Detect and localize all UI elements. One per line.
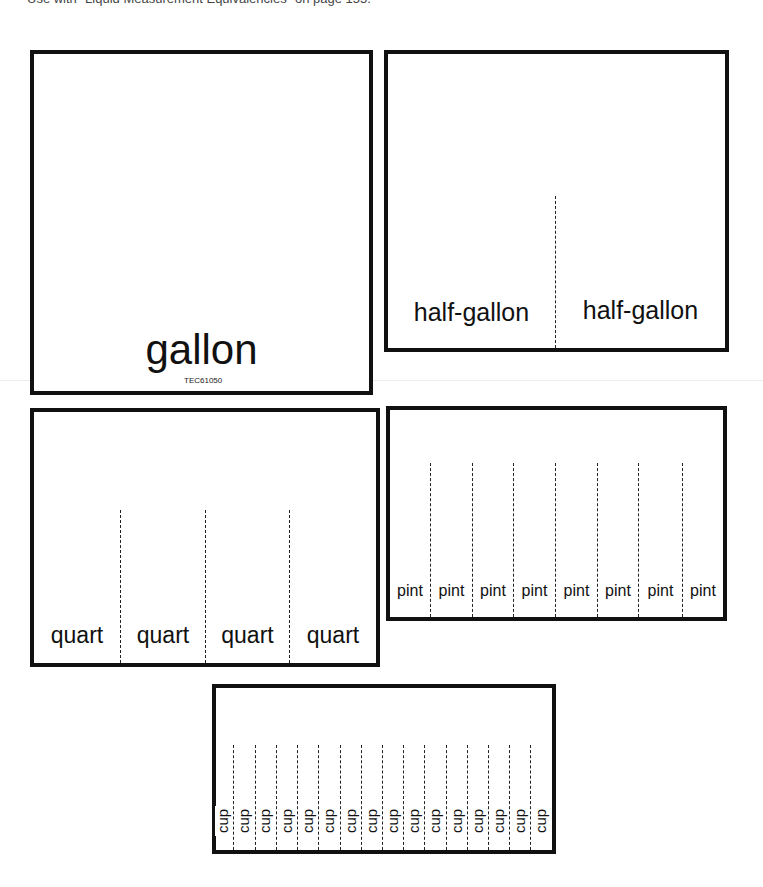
cut-line xyxy=(555,196,556,348)
cup-label: cup xyxy=(257,806,273,836)
pint-card: pint pint pint pint pint pint pint pint xyxy=(386,406,727,621)
pint-label: pint xyxy=(639,582,682,600)
pint-label: pint xyxy=(473,582,513,600)
cup-label: cup xyxy=(406,806,422,836)
pint-label: pint xyxy=(514,582,555,600)
cut-line xyxy=(446,745,447,850)
cut-line xyxy=(530,745,531,850)
cut-line xyxy=(467,745,468,850)
cup-label: cup xyxy=(491,806,507,836)
cut-line xyxy=(340,745,341,850)
half-gallon-label: half-gallon xyxy=(388,298,555,327)
cup-label: cup xyxy=(449,806,465,836)
cup-label: cup xyxy=(427,806,443,836)
cut-line xyxy=(509,745,510,850)
cup-label: cup xyxy=(470,806,486,836)
cup-label: cup xyxy=(385,806,401,836)
cup-label: cup xyxy=(300,806,316,836)
cup-label: cup xyxy=(321,806,337,836)
cut-line xyxy=(233,745,234,850)
pint-label: pint xyxy=(683,582,723,600)
cut-line xyxy=(255,745,256,850)
half-gallon-card: half-gallon half-gallon xyxy=(384,50,729,352)
cup-label: cup xyxy=(215,806,231,836)
quart-label: quart xyxy=(290,622,376,649)
page-instruction-text: Use with "Liquid Measurement Equivalenci… xyxy=(27,0,371,6)
cut-line xyxy=(361,745,362,850)
cup-label: cup xyxy=(343,806,359,836)
cut-line xyxy=(318,745,319,850)
pint-label: pint xyxy=(390,582,430,600)
half-gallon-label: half-gallon xyxy=(556,296,725,325)
cup-label: cup xyxy=(279,806,295,836)
quart-label: quart xyxy=(206,622,289,649)
quart-label: quart xyxy=(34,622,120,649)
cut-line xyxy=(297,745,298,850)
cut-line xyxy=(488,745,489,850)
cup-label: cup xyxy=(236,806,252,836)
pint-label: pint xyxy=(598,582,638,600)
quart-label: quart xyxy=(121,622,205,649)
cut-line xyxy=(276,745,277,850)
pint-label: pint xyxy=(431,582,472,600)
gallon-card: gallon TEC61050 xyxy=(30,50,373,395)
gallon-label: gallon xyxy=(34,326,369,374)
cup-label: cup xyxy=(533,806,549,836)
quart-card: quart quart quart quart xyxy=(30,408,380,667)
pint-label: pint xyxy=(556,582,597,600)
cut-line xyxy=(424,745,425,850)
cut-line xyxy=(403,745,404,850)
product-code: TEC61050 xyxy=(184,376,222,385)
cup-card: cup cup cup cup cup cup cup cup cup cup … xyxy=(212,684,556,854)
cup-label: cup xyxy=(364,806,380,836)
cup-label: cup xyxy=(512,806,528,836)
cut-line xyxy=(382,745,383,850)
